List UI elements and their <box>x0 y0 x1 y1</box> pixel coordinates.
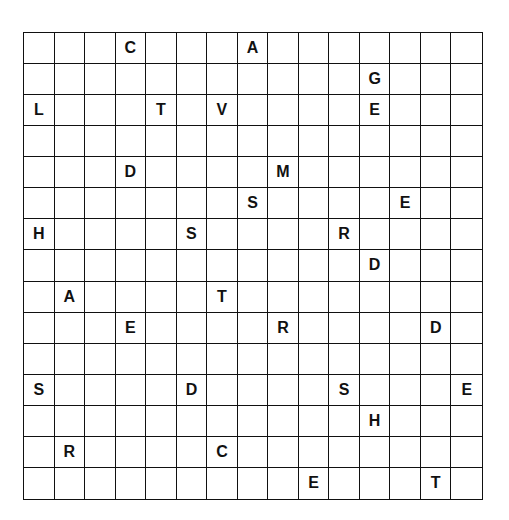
grid-cell-r1-c7[interactable] <box>238 64 269 95</box>
grid-cell-r10-c11[interactable] <box>360 344 391 375</box>
grid-cell-r11-c1[interactable] <box>55 375 86 406</box>
grid-cell-r13-c14[interactable] <box>451 437 482 468</box>
grid-cell-r4-c13[interactable] <box>421 157 452 188</box>
grid-cell-r11-c11[interactable] <box>360 375 391 406</box>
grid-cell-r10-c3[interactable] <box>116 344 147 375</box>
grid-cell-r7-c1[interactable] <box>55 250 86 281</box>
grid-cell-r12-c1[interactable] <box>55 406 86 437</box>
grid-cell-r6-c1[interactable] <box>55 219 86 250</box>
grid-cell-r0-c9[interactable] <box>299 33 330 64</box>
grid-cell-r1-c12[interactable] <box>390 64 421 95</box>
grid-cell-r5-c6[interactable] <box>207 188 238 219</box>
grid-cell-r7-c6[interactable] <box>207 250 238 281</box>
grid-cell-r12-c5[interactable] <box>177 406 208 437</box>
grid-cell-r0-c2[interactable] <box>85 33 116 64</box>
grid-cell-r11-c5[interactable]: D <box>177 375 208 406</box>
grid-cell-r10-c2[interactable] <box>85 344 116 375</box>
grid-cell-r2-c12[interactable] <box>390 95 421 126</box>
grid-cell-r4-c14[interactable] <box>451 157 482 188</box>
grid-cell-r12-c6[interactable] <box>207 406 238 437</box>
grid-cell-r0-c3[interactable]: C <box>116 33 147 64</box>
grid-cell-r9-c1[interactable] <box>55 313 86 344</box>
grid-cell-r8-c12[interactable] <box>390 282 421 313</box>
grid-cell-r7-c9[interactable] <box>299 250 330 281</box>
grid-cell-r0-c11[interactable] <box>360 33 391 64</box>
grid-cell-r7-c12[interactable] <box>390 250 421 281</box>
grid-cell-r5-c10[interactable] <box>329 188 360 219</box>
grid-cell-r9-c14[interactable] <box>451 313 482 344</box>
grid-cell-r5-c3[interactable] <box>116 188 147 219</box>
grid-cell-r3-c6[interactable] <box>207 126 238 157</box>
grid-cell-r8-c9[interactable] <box>299 282 330 313</box>
grid-cell-r0-c7[interactable]: A <box>238 33 269 64</box>
grid-cell-r8-c2[interactable] <box>85 282 116 313</box>
grid-cell-r13-c7[interactable] <box>238 437 269 468</box>
grid-cell-r5-c14[interactable] <box>451 188 482 219</box>
grid-cell-r14-c9[interactable]: E <box>299 468 330 499</box>
grid-cell-r3-c8[interactable] <box>268 126 299 157</box>
grid-cell-r10-c9[interactable] <box>299 344 330 375</box>
grid-cell-r6-c0[interactable]: H <box>24 219 55 250</box>
grid-cell-r10-c10[interactable] <box>329 344 360 375</box>
grid-cell-r10-c0[interactable] <box>24 344 55 375</box>
grid-cell-r9-c8[interactable]: R <box>268 313 299 344</box>
grid-cell-r6-c8[interactable] <box>268 219 299 250</box>
grid-cell-r5-c2[interactable] <box>85 188 116 219</box>
grid-cell-r11-c10[interactable]: S <box>329 375 360 406</box>
grid-cell-r4-c11[interactable] <box>360 157 391 188</box>
grid-cell-r3-c11[interactable] <box>360 126 391 157</box>
grid-cell-r7-c11[interactable]: D <box>360 250 391 281</box>
grid-cell-r6-c3[interactable] <box>116 219 147 250</box>
grid-cell-r8-c3[interactable] <box>116 282 147 313</box>
grid-cell-r4-c10[interactable] <box>329 157 360 188</box>
grid-cell-r14-c8[interactable] <box>268 468 299 499</box>
grid-cell-r14-c0[interactable] <box>24 468 55 499</box>
grid-cell-r13-c8[interactable] <box>268 437 299 468</box>
grid-cell-r13-c5[interactable] <box>177 437 208 468</box>
grid-cell-r12-c14[interactable] <box>451 406 482 437</box>
grid-cell-r2-c3[interactable] <box>116 95 147 126</box>
grid-cell-r11-c13[interactable] <box>421 375 452 406</box>
grid-cell-r8-c4[interactable] <box>146 282 177 313</box>
grid-cell-r8-c13[interactable] <box>421 282 452 313</box>
grid-cell-r11-c2[interactable] <box>85 375 116 406</box>
grid-cell-r3-c2[interactable] <box>85 126 116 157</box>
grid-cell-r7-c14[interactable] <box>451 250 482 281</box>
grid-cell-r13-c1[interactable]: R <box>55 437 86 468</box>
grid-cell-r9-c4[interactable] <box>146 313 177 344</box>
grid-cell-r12-c9[interactable] <box>299 406 330 437</box>
grid-cell-r8-c10[interactable] <box>329 282 360 313</box>
grid-cell-r9-c12[interactable] <box>390 313 421 344</box>
grid-cell-r11-c12[interactable] <box>390 375 421 406</box>
grid-cell-r5-c4[interactable] <box>146 188 177 219</box>
grid-cell-r4-c5[interactable] <box>177 157 208 188</box>
grid-cell-r9-c5[interactable] <box>177 313 208 344</box>
grid-cell-r11-c9[interactable] <box>299 375 330 406</box>
grid-cell-r6-c11[interactable] <box>360 219 391 250</box>
grid-cell-r4-c12[interactable] <box>390 157 421 188</box>
grid-cell-r9-c0[interactable] <box>24 313 55 344</box>
grid-cell-r1-c3[interactable] <box>116 64 147 95</box>
grid-cell-r8-c1[interactable]: A <box>55 282 86 313</box>
grid-cell-r13-c10[interactable] <box>329 437 360 468</box>
grid-cell-r5-c11[interactable] <box>360 188 391 219</box>
grid-cell-r6-c6[interactable] <box>207 219 238 250</box>
grid-cell-r3-c13[interactable] <box>421 126 452 157</box>
grid-cell-r7-c5[interactable] <box>177 250 208 281</box>
grid-cell-r11-c8[interactable] <box>268 375 299 406</box>
grid-cell-r6-c4[interactable] <box>146 219 177 250</box>
grid-cell-r4-c4[interactable] <box>146 157 177 188</box>
grid-cell-r9-c10[interactable] <box>329 313 360 344</box>
grid-cell-r5-c13[interactable] <box>421 188 452 219</box>
grid-cell-r0-c12[interactable] <box>390 33 421 64</box>
grid-cell-r13-c9[interactable] <box>299 437 330 468</box>
grid-cell-r12-c8[interactable] <box>268 406 299 437</box>
grid-cell-r8-c0[interactable] <box>24 282 55 313</box>
grid-cell-r12-c10[interactable] <box>329 406 360 437</box>
grid-cell-r14-c14[interactable] <box>451 468 482 499</box>
grid-cell-r2-c9[interactable] <box>299 95 330 126</box>
grid-cell-r1-c8[interactable] <box>268 64 299 95</box>
grid-cell-r1-c4[interactable] <box>146 64 177 95</box>
grid-cell-r8-c8[interactable] <box>268 282 299 313</box>
grid-cell-r6-c10[interactable]: R <box>329 219 360 250</box>
